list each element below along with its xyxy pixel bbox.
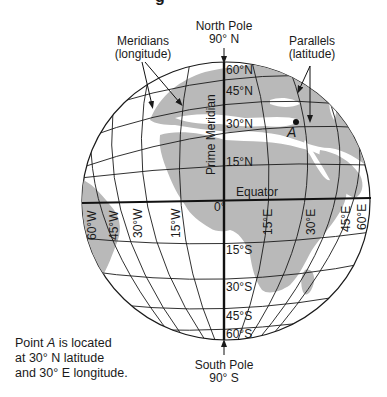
lat-label-15s: 15°S <box>226 244 252 257</box>
lat-label-45n: 45°N <box>226 85 253 98</box>
north-pole-value: 90° N <box>194 33 254 46</box>
lon-label-30w: 30°W <box>132 209 145 238</box>
prime-meridian-label: Prime Meridian <box>205 94 218 175</box>
caption-line-2: at 30° N latitude <box>15 351 128 366</box>
meridians-callout: Meridians (longitude) <box>108 35 178 61</box>
lon-label-45e: 45°E <box>340 206 353 232</box>
lat-label-45s: 45°S <box>226 310 252 323</box>
meridians-callout-subtitle: (longitude) <box>108 48 178 61</box>
lon-label-45w: 45°W <box>108 211 121 240</box>
point-a-label: A <box>287 126 296 139</box>
caption-line-1-pre: Point <box>15 336 47 350</box>
equator-label: Equator <box>236 186 278 199</box>
north-pole-label: North Pole 90° N <box>194 20 254 46</box>
lon-label-15w: 15°W <box>170 209 183 238</box>
south-pole-label: South Pole 90° S <box>194 359 254 385</box>
lat-label-60n: 60°N <box>226 64 253 77</box>
caption-line-3: and 30° E longitude. <box>15 366 128 381</box>
lon-label-60e: 60°E <box>356 204 369 230</box>
lat-label-30n: 30°N <box>226 118 253 131</box>
caption: Point A is located at 30° N latitude and… <box>15 336 128 381</box>
lon-label-30e: 30°E <box>305 209 318 235</box>
lat-label-60s: 60°S <box>226 328 252 341</box>
caption-line-1: Point A is located <box>15 336 128 351</box>
lon-label-60w: 60°W <box>86 211 99 240</box>
caption-line-1-post: is located <box>55 336 111 350</box>
south-pole-value: 90° S <box>194 372 254 385</box>
parallels-callout-subtitle: (latitude) <box>282 48 342 61</box>
lon-label-15e: 15°E <box>262 209 275 235</box>
title-fragment: g <box>155 0 165 3</box>
origin-label: 0° <box>214 201 225 214</box>
lat-label-30s: 30°S <box>226 281 252 294</box>
parallels-callout: Parallels (latitude) <box>282 35 342 61</box>
lat-label-15n: 15°N <box>226 156 253 169</box>
